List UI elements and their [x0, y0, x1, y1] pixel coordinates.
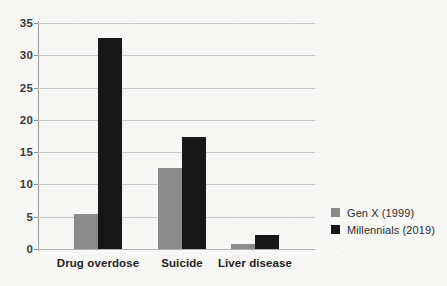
tick-mark-10 — [34, 184, 38, 185]
y-tick-label-10: 10 — [3, 178, 33, 190]
bar — [231, 244, 255, 249]
bar — [158, 168, 182, 249]
bar — [255, 235, 279, 249]
legend-label: Gen X (1999) — [347, 207, 414, 219]
y-tick-label-15: 15 — [3, 146, 33, 158]
category-label-1: Drug overdose — [57, 257, 139, 269]
category-label-2: Suicide — [161, 257, 203, 269]
tick-mark-5 — [34, 217, 38, 218]
gridline-0 — [38, 249, 315, 250]
legend-item: Gen X (1999) — [331, 204, 435, 221]
bar-group — [74, 23, 122, 249]
legend-swatch-icon — [331, 225, 340, 234]
plot-area — [38, 23, 315, 249]
legend-swatch-icon — [331, 208, 340, 217]
bar — [182, 137, 206, 249]
y-tick-label-5: 5 — [3, 211, 33, 223]
y-tick-label-35: 35 — [3, 17, 33, 29]
bar-chart: 05101520253035 Drug overdoseSuicideLiver… — [0, 0, 447, 286]
bar-group — [158, 23, 206, 249]
y-tick-label-30: 30 — [3, 49, 33, 61]
y-tick-label-25: 25 — [3, 82, 33, 94]
tick-mark-35 — [34, 23, 38, 24]
tick-mark-20 — [34, 120, 38, 121]
legend-item: Millennials (2019) — [331, 221, 435, 238]
y-tick-label-0: 0 — [3, 243, 33, 255]
tick-mark-25 — [34, 88, 38, 89]
tick-mark-0 — [34, 249, 38, 250]
category-label-3: Liver disease — [218, 257, 292, 269]
tick-mark-15 — [34, 152, 38, 153]
y-tick-label-20: 20 — [3, 114, 33, 126]
bar — [98, 38, 122, 249]
bar-group — [231, 23, 279, 249]
bar — [74, 214, 98, 250]
chart-legend: Gen X (1999)Millennials (2019) — [331, 204, 435, 238]
legend-label: Millennials (2019) — [347, 224, 435, 236]
tick-mark-30 — [34, 55, 38, 56]
